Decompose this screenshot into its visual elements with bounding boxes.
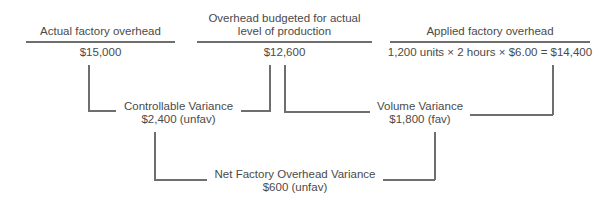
net-right-connector	[434, 132, 436, 180]
net-right-arm	[383, 179, 435, 181]
controllable-variance-value: $2,400 (unfav)	[116, 113, 241, 126]
applied-overhead-value: 1,200 units × 2 hours × $6.00 = $14,400	[376, 46, 604, 59]
applied-overhead-rule	[390, 41, 590, 43]
budgeted-overhead-header-line2: level of production	[197, 25, 372, 38]
budgeted-overhead-rule	[197, 41, 372, 43]
volume-left-connector	[284, 65, 286, 112]
actual-overhead-header: Actual factory overhead	[26, 25, 175, 38]
net-variance-label: Net Factory Overhead Variance	[207, 168, 383, 181]
actual-overhead-rule	[26, 41, 175, 43]
volume-right-connector	[552, 65, 554, 115]
applied-overhead-header: Applied factory overhead	[390, 25, 590, 38]
volume-variance-label: Volume Variance	[370, 100, 470, 113]
controllable-right-arm	[241, 110, 270, 112]
controllable-variance-label: Controllable Variance	[116, 100, 241, 113]
net-left-connector	[154, 132, 156, 180]
volume-right-arm	[470, 114, 553, 116]
net-left-arm	[154, 179, 207, 181]
controllable-left-connector	[88, 65, 90, 111]
budgeted-overhead-value: $12,600	[197, 46, 372, 59]
actual-overhead-value: $15,000	[26, 46, 175, 59]
volume-left-arm	[284, 111, 370, 113]
budgeted-overhead-header-line1: Overhead budgeted for actual	[197, 12, 372, 25]
net-variance-value: $600 (unfav)	[207, 181, 383, 194]
controllable-right-connector	[269, 65, 271, 112]
volume-variance-value: $1,800 (fav)	[370, 113, 470, 126]
controllable-left-arm	[88, 110, 116, 112]
